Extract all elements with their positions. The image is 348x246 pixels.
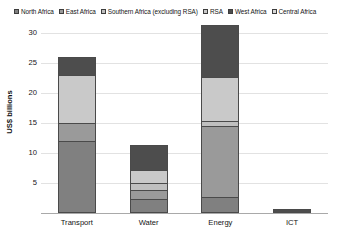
bar-segment	[130, 145, 168, 170]
bar-segment	[130, 183, 168, 190]
legend-swatch-icon	[228, 9, 233, 14]
legend-item-rsa[interactable]: RSA	[203, 8, 223, 15]
bar-water[interactable]	[130, 145, 168, 213]
legend-item-west-africa[interactable]: West Africa	[228, 8, 267, 15]
legend-swatch-icon	[203, 9, 208, 14]
legend-label: RSA	[210, 8, 223, 15]
bar-segment	[130, 170, 168, 183]
legend-swatch-icon	[272, 9, 277, 14]
bar-segment	[58, 141, 96, 213]
legend-swatch-icon	[59, 9, 64, 14]
x-axis-tick-label-transport: Transport	[41, 218, 113, 227]
chart-legend: North AfricaEast AfricaSouthern Africa (…	[14, 5, 338, 18]
x-axis-tick-label-water: Water	[113, 218, 185, 227]
bar-segment	[201, 77, 239, 121]
x-axis-line	[41, 213, 328, 214]
y-axis-tick-label: 30	[3, 29, 37, 37]
legend-label: West Africa	[235, 8, 267, 15]
y-axis-tick-label: 10	[3, 149, 37, 157]
y-axis-tick-label: 5	[3, 179, 37, 187]
bar-energy[interactable]	[201, 25, 239, 213]
plot-area	[41, 33, 328, 213]
gridline	[41, 33, 328, 34]
legend-item-central-africa[interactable]: Central Africa	[272, 8, 317, 15]
legend-label: Southern Africa (excluding RSA)	[108, 8, 198, 15]
legend-label: East Africa	[66, 8, 96, 15]
bar-transport[interactable]	[58, 57, 96, 213]
bar-segment	[58, 57, 96, 75]
y-axis-tick-label: 25	[3, 59, 37, 67]
bar-segment	[58, 123, 96, 141]
y-axis-title: US$ billions	[6, 77, 14, 147]
legend-label: Central Africa	[279, 8, 317, 15]
stacked-bar-chart: North AfricaEast AfricaSouthern Africa (…	[0, 0, 348, 246]
x-axis-tick-label-ict: ICT	[256, 218, 328, 227]
legend-swatch-icon	[101, 9, 106, 14]
bar-segment	[130, 199, 168, 213]
bar-segment	[201, 25, 239, 77]
bar-segment	[130, 190, 168, 200]
x-axis-tick-label-energy: Energy	[185, 218, 257, 227]
bar-segment	[201, 126, 239, 197]
legend-item-southern-africa-excluding-rsa[interactable]: Southern Africa (excluding RSA)	[101, 8, 198, 15]
bar-segment	[58, 75, 96, 123]
bar-segment	[201, 197, 239, 213]
legend-item-east-africa[interactable]: East Africa	[59, 8, 96, 15]
